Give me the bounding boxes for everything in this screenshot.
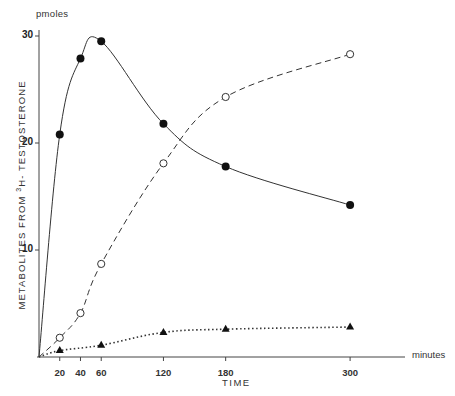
axes <box>35 30 405 361</box>
filled-triangle-marker <box>222 325 230 332</box>
x-tick-label: 40 <box>75 367 86 378</box>
x-tick-label: 300 <box>342 367 358 378</box>
open-circle-marker <box>56 334 63 341</box>
open-circle-marker <box>160 160 167 167</box>
filled-circle-marker <box>56 130 64 138</box>
y-tick-label: 20 <box>22 136 33 147</box>
open-circle-marker <box>222 93 229 100</box>
open-circle-marker <box>347 51 354 58</box>
y-axis-title: METABOLITES FROM 3H- TESTOSTERONE <box>15 80 27 309</box>
filled-triangle-marker <box>346 323 354 330</box>
y-title-after: H- TESTOSTERONE <box>16 80 27 186</box>
x-tick-label: 120 <box>156 367 172 378</box>
series-line-filled-circle <box>39 37 350 357</box>
y-tick-label: 30 <box>22 29 33 40</box>
open-circle-marker <box>77 310 84 317</box>
filled-circle-marker <box>159 120 167 128</box>
filled-circle-marker <box>222 163 230 171</box>
y-tick-label: 10 <box>22 243 33 254</box>
chart-canvas <box>0 0 455 396</box>
x-tick-label: 60 <box>96 367 107 378</box>
filled-circle-marker <box>346 201 354 209</box>
filled-circle-marker <box>97 37 105 45</box>
filled-triangle-marker <box>159 328 167 335</box>
x-axis-title: TIME <box>222 377 251 388</box>
series-layer <box>39 37 354 357</box>
filled-triangle-marker <box>97 341 105 348</box>
x-tick-label: 180 <box>218 367 234 378</box>
series-line-filled-triangle <box>39 327 350 357</box>
x-tick-label: 20 <box>54 367 65 378</box>
series-line-open-circle <box>39 54 350 357</box>
filled-circle-marker <box>76 54 84 62</box>
y-title-superscript: 3 <box>15 187 22 192</box>
y-unit-label: pmoles <box>36 8 68 19</box>
x-unit-label: minutes <box>412 349 445 360</box>
open-circle-marker <box>98 260 105 267</box>
